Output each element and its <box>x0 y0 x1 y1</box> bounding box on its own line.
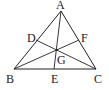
label-C: C <box>94 72 102 86</box>
label-F: F <box>81 31 88 45</box>
point-G-dot <box>56 49 58 51</box>
segment-BF <box>14 40 79 69</box>
label-A: A <box>56 0 65 12</box>
label-E: E <box>51 72 58 86</box>
triangle-diagram: A B C D E F G <box>0 0 109 90</box>
point-labels: A B C D E F G <box>6 0 102 86</box>
label-G: G <box>57 53 66 67</box>
label-D: D <box>27 31 36 45</box>
label-B: B <box>6 72 14 86</box>
segment-AB <box>14 11 61 69</box>
